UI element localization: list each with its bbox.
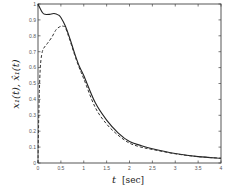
y-tick-label: 1: [33, 1, 36, 7]
x-tick-label: 3: [174, 165, 177, 171]
x-axis-label-unit: [sec]: [122, 175, 144, 185]
y-tick-label: 0.9: [29, 17, 36, 23]
line-chart: 00.511.522.533.5400.10.20.30.40.50.60.70…: [0, 0, 230, 191]
plot-frame: [38, 4, 221, 163]
x-tick-label: 0.5: [57, 165, 64, 171]
y-tick-label: 0.6: [29, 64, 36, 70]
y-tick-label: 0.8: [29, 33, 36, 39]
x-axis-label-var: t: [112, 174, 117, 185]
y-tick-label: 0.1: [29, 144, 36, 150]
y-tick-label: 0.5: [29, 80, 36, 86]
x-tick-label: 3.5: [195, 165, 202, 171]
x-tick-label: 2: [128, 165, 131, 171]
x-tick-label: 1.5: [103, 165, 110, 171]
y-axis-label: x₁(t), x̂₁(t): [10, 59, 21, 108]
y-tick-label: 0.7: [29, 49, 36, 55]
x-tick-label: 4: [220, 165, 223, 171]
x-tick-label: 0: [37, 165, 40, 171]
x-axis-label: t [sec]: [112, 174, 144, 185]
y-tick-label: 0.4: [29, 96, 36, 102]
y-tick-label: 0: [33, 160, 36, 166]
y-tick-label: 0.3: [29, 112, 36, 118]
x-tick-label: 2.5: [149, 165, 156, 171]
y-tick-label: 0.2: [29, 128, 36, 134]
x-tick-label: 1: [82, 165, 85, 171]
